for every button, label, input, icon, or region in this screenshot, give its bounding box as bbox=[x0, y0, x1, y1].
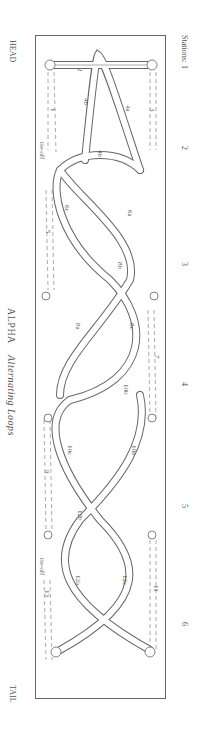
svg-text:12c: 12c bbox=[121, 575, 129, 585]
svg-text:10a: 10a bbox=[130, 445, 138, 456]
svg-text:tie-off: tie-off bbox=[38, 142, 46, 160]
svg-text:11: 11 bbox=[152, 585, 160, 592]
svg-text:3: 3 bbox=[148, 108, 156, 112]
svg-text:8a: 8a bbox=[74, 323, 82, 331]
svg-text:4b: 4b bbox=[96, 150, 104, 158]
svg-text:13: 13 bbox=[43, 590, 51, 598]
svg-text:tie-off: tie-off bbox=[38, 558, 46, 576]
svg-text:5: 5 bbox=[44, 230, 52, 234]
svg-text:1: 1 bbox=[49, 108, 57, 112]
svg-text:6c: 6c bbox=[63, 205, 71, 212]
svg-text:12a: 12a bbox=[74, 575, 82, 586]
strands bbox=[50, 55, 152, 650]
svg-text:12b: 12b bbox=[76, 510, 84, 521]
svg-text:4b: 4b bbox=[82, 98, 90, 106]
svg-text:9: 9 bbox=[43, 470, 51, 474]
svg-text:6a: 6a bbox=[126, 210, 134, 218]
svg-text:10c: 10c bbox=[66, 445, 74, 455]
svg-text:2: 2 bbox=[76, 68, 84, 72]
svg-text:8c: 8c bbox=[128, 323, 136, 330]
svg-text:10b: 10b bbox=[122, 384, 130, 395]
svg-text:7: 7 bbox=[153, 355, 161, 359]
svg-text:4a: 4a bbox=[124, 105, 132, 113]
loop-diagram: 2 1 3 4b 4a 4b tie-off 6c 6a 5 8b 8a 8c … bbox=[0, 0, 200, 733]
svg-text:8b: 8b bbox=[116, 262, 124, 270]
